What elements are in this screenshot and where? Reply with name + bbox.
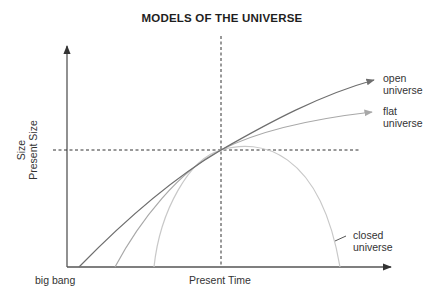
closed-universe-label: closed universe [353, 229, 393, 253]
flat-universe-curve [115, 112, 372, 267]
big-bang-label: big bang [35, 274, 75, 286]
open-universe-curve [79, 80, 374, 267]
present-time-label: Present Time [189, 274, 251, 286]
flat-universe-label: flat universe [383, 105, 423, 129]
universe-models-diagram [0, 0, 444, 301]
open-universe-label: open universe [383, 72, 423, 96]
y-axis-label-present-size: Present Size [27, 120, 39, 180]
closed-universe-curve [154, 146, 340, 267]
closed-universe-leader-line [335, 236, 346, 241]
y-axis-label: Size Present Size [15, 120, 39, 180]
y-axis-label-size: Size [15, 120, 27, 180]
